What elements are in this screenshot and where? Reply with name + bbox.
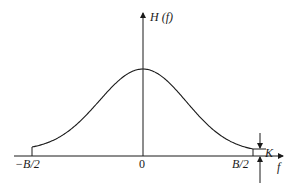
f-axis-label: f: [277, 160, 282, 174]
diagram-canvas: H (f) f −B/2 0 B/2 K: [0, 0, 297, 185]
tick-label-neg-b-half: −B/2: [15, 157, 40, 171]
tick-label-b-half: B/2: [232, 157, 249, 171]
k-label: K: [264, 146, 274, 160]
tick-label-zero: 0: [139, 157, 145, 171]
h-axis-label: H (f): [149, 10, 173, 24]
